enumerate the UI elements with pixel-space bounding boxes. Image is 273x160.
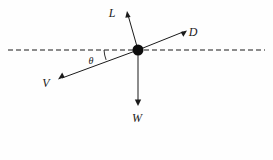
velocity-vector-label: V: [42, 76, 51, 90]
body-point-dot: [133, 45, 144, 56]
theta-angle-arc: [104, 50, 106, 60]
force-diagram-canvas: L D V W θ: [0, 0, 273, 160]
theta-angle-label: θ: [89, 55, 94, 66]
force-diagram-figure: L D V W θ: [0, 0, 273, 160]
velocity-arrowhead-icon: [58, 72, 65, 79]
drag-arrowhead-icon: [181, 31, 187, 37]
drag-vector-label: D: [188, 25, 198, 39]
lift-vector-label: L: [108, 6, 116, 20]
velocity-vector-shaft: [62, 50, 138, 78]
drag-vector-shaft: [138, 32, 183, 50]
weight-arrowhead-icon: [135, 100, 141, 106]
lift-arrowhead-icon: [125, 11, 130, 18]
weight-vector-label: W: [132, 111, 143, 125]
